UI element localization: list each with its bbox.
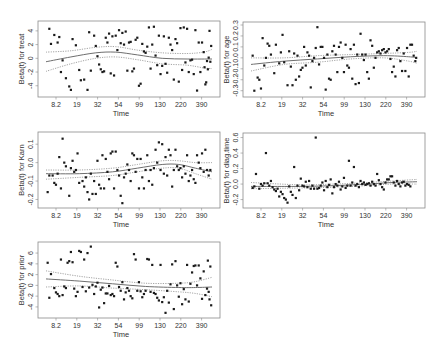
data-point <box>291 194 293 196</box>
data-point <box>63 162 65 164</box>
data-point <box>126 287 128 289</box>
fit-line <box>251 56 417 65</box>
data-point <box>101 286 103 288</box>
data-point <box>128 169 130 171</box>
data-point <box>86 89 88 91</box>
data-point <box>270 180 272 182</box>
data-point <box>196 284 198 286</box>
data-point <box>351 181 353 183</box>
data-point <box>321 181 323 183</box>
data-point <box>116 49 118 51</box>
data-point <box>199 277 201 279</box>
data-point <box>145 52 147 54</box>
data-point <box>126 163 128 165</box>
data-point <box>290 191 292 193</box>
y-tick-label: 4 <box>27 29 34 33</box>
panel-karn: 8.219325499130220390Time-0.2-0.10.00.1Be… <box>17 132 220 229</box>
x-axis-label: Time <box>113 109 129 118</box>
x-tick-label: 130 <box>154 322 166 329</box>
data-point <box>158 141 160 143</box>
data-point <box>303 46 305 48</box>
data-point <box>125 291 127 293</box>
data-point <box>156 64 158 66</box>
data-point <box>275 44 277 46</box>
x-tick-label: 32 <box>94 101 102 108</box>
data-point <box>196 89 198 91</box>
data-point <box>60 71 62 73</box>
x-tick-label: 390 <box>401 101 413 108</box>
data-point <box>268 185 270 187</box>
data-point <box>373 67 375 69</box>
data-point <box>138 187 140 189</box>
data-point <box>169 43 171 45</box>
data-point <box>396 49 398 51</box>
data-point <box>48 28 50 30</box>
data-point <box>359 180 361 182</box>
data-point <box>60 258 62 260</box>
x-tick-label: 99 <box>340 212 348 219</box>
data-point <box>103 302 105 304</box>
data-point <box>374 57 376 59</box>
data-point <box>267 182 269 184</box>
data-point <box>267 43 269 45</box>
data-point <box>311 185 313 187</box>
data-point <box>328 184 330 186</box>
data-point <box>133 253 135 255</box>
x-tick-label: 32 <box>94 322 102 329</box>
data-point <box>181 303 183 305</box>
data-point <box>265 57 267 59</box>
data-point <box>148 258 150 260</box>
data-point <box>262 185 264 187</box>
data-point <box>414 60 416 62</box>
data-point <box>164 63 166 65</box>
y-tick-label: -2 <box>27 69 34 75</box>
data-point <box>65 287 67 289</box>
data-point <box>174 38 176 40</box>
data-point <box>391 175 393 177</box>
data-point <box>105 37 107 39</box>
data-point <box>298 189 300 191</box>
y-tick-label: 2 <box>27 273 34 277</box>
data-point <box>398 183 400 185</box>
data-point <box>346 64 348 66</box>
data-point <box>174 149 176 151</box>
data-point <box>65 77 67 79</box>
data-point <box>140 290 142 292</box>
y-tick-label: 2 <box>27 43 34 47</box>
x-tick-label: 99 <box>135 322 143 329</box>
data-point <box>118 286 120 288</box>
x-tick-label: 8.2 <box>256 101 266 108</box>
data-point <box>106 292 108 294</box>
data-point <box>298 75 300 77</box>
data-point <box>308 55 310 57</box>
data-point <box>358 82 360 84</box>
data-point <box>350 185 352 187</box>
data-point <box>203 270 205 272</box>
data-point <box>208 174 210 176</box>
data-point <box>368 78 370 80</box>
data-point <box>113 295 115 297</box>
data-point <box>255 173 257 175</box>
data-point <box>75 295 77 297</box>
data-point <box>353 166 355 168</box>
x-tick-label: 390 <box>401 212 413 219</box>
data-point <box>131 70 133 72</box>
data-point <box>121 32 123 34</box>
ci-upper-line <box>46 46 212 53</box>
data-point <box>379 183 381 185</box>
data-point <box>71 261 73 263</box>
data-point <box>325 180 327 182</box>
data-point <box>133 68 135 70</box>
data-point <box>118 29 120 31</box>
data-point <box>70 89 72 91</box>
data-point <box>389 58 391 60</box>
data-point <box>199 167 201 169</box>
data-point <box>85 176 87 178</box>
data-point <box>280 51 282 53</box>
data-point <box>98 63 100 65</box>
data-point <box>123 298 125 300</box>
data-point <box>206 169 208 171</box>
data-point <box>173 169 175 171</box>
data-point <box>296 185 298 187</box>
data-point <box>138 281 140 283</box>
